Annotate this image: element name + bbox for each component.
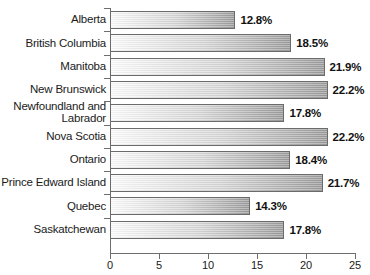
horizontal-bar-chart: Alberta12.8%British Columbia18.5%Manitob…	[0, 0, 370, 275]
category-label: Newfoundland and Labrador	[13, 101, 106, 124]
bar	[110, 81, 328, 99]
x-axis-line	[110, 253, 356, 254]
category-label: Alberta	[71, 14, 106, 26]
bar-value-label: 18.4%	[295, 151, 327, 169]
category-label: New Brunswick	[30, 84, 106, 96]
x-axis-tick-label: 25	[349, 259, 361, 272]
bar	[110, 197, 250, 215]
bar	[110, 151, 290, 169]
category-label: Prince Edward Island	[1, 177, 106, 189]
bar-value-label: 18.5%	[296, 34, 328, 52]
bar	[110, 104, 284, 122]
bar	[110, 221, 284, 239]
bar-value-label: 14.3%	[255, 197, 287, 215]
bar-value-label: 22.2%	[333, 128, 365, 146]
bar-value-label: 17.8%	[289, 221, 321, 239]
category-label: Quebec	[67, 201, 106, 213]
y-axis-tick	[104, 31, 110, 32]
bar	[110, 128, 328, 146]
category-label: Nova Scotia	[46, 131, 106, 143]
category-label: Ontario	[70, 154, 106, 166]
y-axis-tick	[104, 125, 110, 126]
bar-value-label: 21.7%	[328, 174, 360, 192]
category-label: Manitoba	[60, 61, 106, 73]
x-axis-tick-label: 10	[202, 259, 214, 272]
bar	[110, 34, 291, 52]
bar-value-label: 21.9%	[330, 58, 362, 76]
category-label: Saskatchewan	[34, 224, 106, 236]
bar	[110, 58, 325, 76]
y-axis-tick	[104, 78, 110, 79]
bar	[110, 11, 235, 29]
y-axis-tick	[104, 194, 110, 195]
x-axis-tick-label: 15	[251, 259, 263, 272]
y-axis-tick	[104, 171, 110, 172]
x-axis-tick-label: 20	[300, 259, 312, 272]
bar-value-label: 12.8%	[240, 11, 272, 29]
y-axis-tick	[104, 218, 110, 219]
x-axis-tick-label: 0	[107, 259, 113, 272]
y-axis-tick	[104, 8, 110, 9]
bar	[110, 174, 323, 192]
category-label: British Columbia	[25, 38, 106, 50]
bar-value-label: 17.8%	[289, 104, 321, 122]
y-axis-tick	[104, 55, 110, 56]
x-axis-tick-label: 5	[156, 259, 162, 272]
y-axis-tick	[104, 148, 110, 149]
bar-value-label: 22.2%	[333, 81, 365, 99]
